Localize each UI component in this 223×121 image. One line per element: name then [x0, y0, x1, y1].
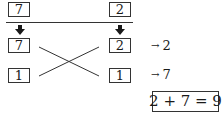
result-value-1: 2 [162, 38, 170, 53]
right-arrow-icon: → [151, 69, 159, 80]
equation-text: 2 + 7 = 9 [149, 94, 222, 109]
right-arrow-icon: → [151, 40, 159, 51]
equation-box: 2 + 7 = 9 [152, 91, 219, 112]
result-value-2: 7 [162, 67, 170, 82]
result-row-2: →7 [151, 68, 171, 81]
result-row-1: →2 [151, 39, 171, 52]
